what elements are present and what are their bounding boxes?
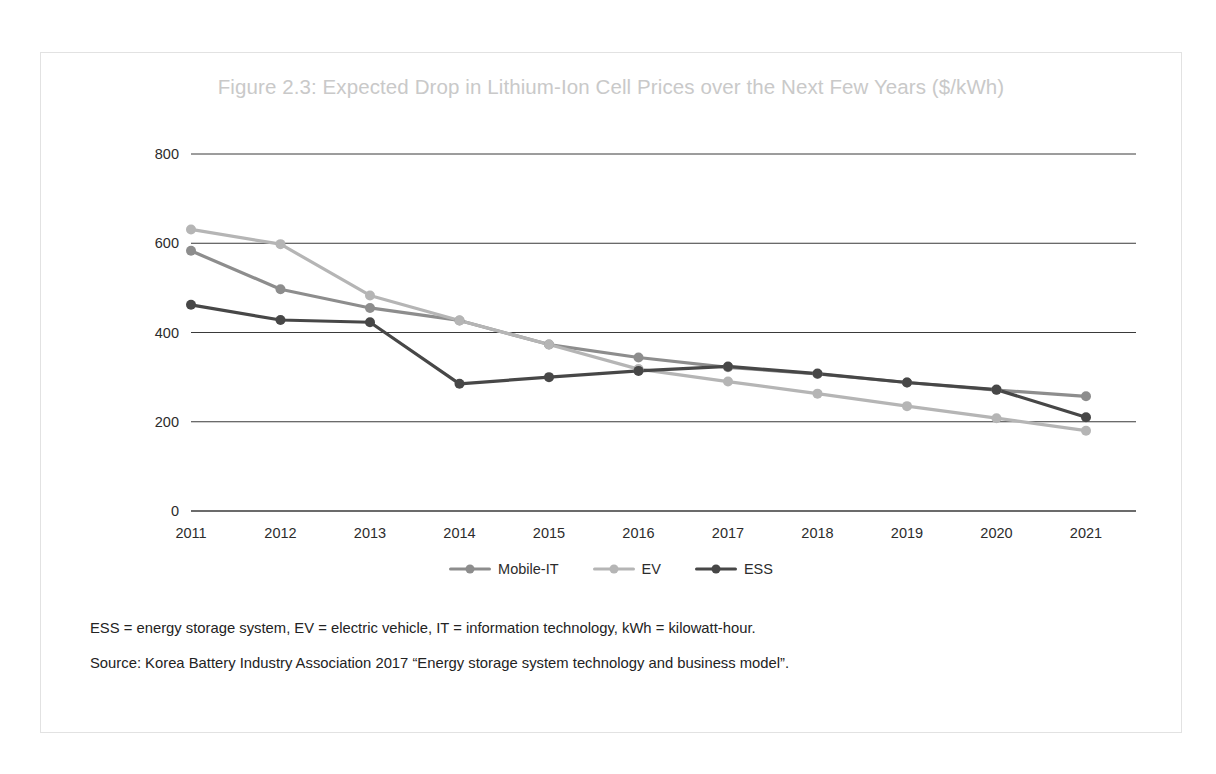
x-tick-label: 2013 xyxy=(335,525,405,541)
data-point xyxy=(186,224,196,234)
y-tick-label: 400 xyxy=(133,325,179,341)
chart-legend: Mobile-ITEVESS xyxy=(41,561,1181,577)
data-point xyxy=(276,284,286,294)
data-point xyxy=(992,413,1002,423)
x-tick-label: 2014 xyxy=(425,525,495,541)
data-point xyxy=(634,366,644,376)
x-tick-label: 2020 xyxy=(962,525,1032,541)
data-point xyxy=(813,389,823,399)
data-point xyxy=(902,377,912,387)
data-point xyxy=(723,361,733,371)
legend-swatch-mobile-it xyxy=(449,563,491,575)
x-tick-label: 2019 xyxy=(872,525,942,541)
legend-item-ess[interactable]: ESS xyxy=(695,561,773,577)
legend-dot-icon xyxy=(466,565,475,574)
legend-dot-icon xyxy=(609,565,618,574)
x-tick-label: 2018 xyxy=(783,525,853,541)
data-point xyxy=(186,246,196,256)
data-point xyxy=(1081,391,1091,401)
legend-label: EV xyxy=(642,561,661,577)
data-point xyxy=(455,379,465,389)
x-tick-label: 2012 xyxy=(246,525,316,541)
data-point xyxy=(186,300,196,310)
y-tick-label: 0 xyxy=(133,503,179,519)
data-point xyxy=(276,239,286,249)
footnote-source: Source: Korea Battery Industry Associati… xyxy=(90,655,789,671)
x-tick-label: 2021 xyxy=(1051,525,1121,541)
series-line-ev xyxy=(191,229,1086,430)
data-point xyxy=(992,385,1002,395)
x-tick-label: 2011 xyxy=(156,525,226,541)
data-point xyxy=(365,303,375,313)
x-tick-label: 2016 xyxy=(604,525,674,541)
data-point xyxy=(365,317,375,327)
y-tick-label: 800 xyxy=(133,146,179,162)
data-point xyxy=(455,315,465,325)
data-point xyxy=(544,372,554,382)
legend-item-ev[interactable]: EV xyxy=(593,561,661,577)
data-point xyxy=(544,340,554,350)
legend-dot-icon xyxy=(711,565,720,574)
figure-container: Figure 2.3: Expected Drop in Lithium-Ion… xyxy=(40,52,1182,733)
legend-swatch-ev xyxy=(593,563,635,575)
x-tick-label: 2015 xyxy=(514,525,584,541)
data-point xyxy=(365,290,375,300)
y-tick-label: 600 xyxy=(133,235,179,251)
legend-label: Mobile-IT xyxy=(498,561,558,577)
data-point xyxy=(723,377,733,387)
x-tick-label: 2017 xyxy=(693,525,763,541)
legend-label: ESS xyxy=(744,561,773,577)
y-tick-label: 200 xyxy=(133,414,179,430)
legend-item-mobile-it[interactable]: Mobile-IT xyxy=(449,561,558,577)
data-point xyxy=(634,352,644,362)
data-point xyxy=(276,315,286,325)
data-point xyxy=(1081,426,1091,436)
legend-swatch-ess xyxy=(695,563,737,575)
data-point xyxy=(813,369,823,379)
footnote-abbreviations: ESS = energy storage system, EV = electr… xyxy=(90,620,756,636)
data-point xyxy=(902,401,912,411)
data-point xyxy=(1081,412,1091,422)
